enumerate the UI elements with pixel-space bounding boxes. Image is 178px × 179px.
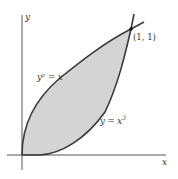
shaded-region (22, 29, 131, 155)
upper-curve-label: y² = x (36, 72, 63, 82)
intersection-point (129, 27, 133, 31)
region-diagram: y x (1, 1) y² = x y = x3 (0, 0, 178, 179)
lower-curve-label-exp: 3 (122, 114, 126, 121)
lower-curve-label: y = x3 (99, 114, 126, 126)
y-axis-label: y (24, 12, 31, 22)
lower-curve-label-base: y = x (99, 116, 122, 126)
x-axis-label: x (162, 157, 167, 167)
intersection-label: (1, 1) (133, 32, 156, 42)
